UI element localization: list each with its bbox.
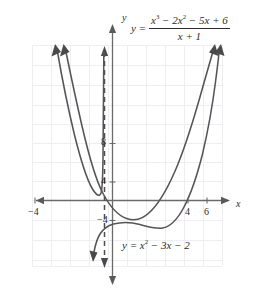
y-axis-label: y	[122, 12, 126, 23]
x-tick-label-4: 4	[185, 206, 190, 217]
equation-label-parabola: y = x2 − 3x − 2	[122, 238, 190, 251]
y-axis	[109, 24, 116, 285]
parabola-lhs: y = x	[122, 239, 145, 251]
graph-canvas	[0, 0, 256, 297]
y-tick-label-8: 8	[101, 136, 106, 147]
rational-numerator: x3 − 2x2 − 5x + 6	[149, 13, 230, 27]
vertical-asymptote-x-eq-neg1	[101, 46, 108, 268]
x-axis	[36, 197, 230, 204]
rational-fraction: x3 − 2x2 − 5x + 6 x + 1	[149, 13, 230, 43]
parabola-rest: − 3x − 2	[148, 239, 190, 251]
grid-lines	[32, 45, 223, 267]
rational-lhs: y =	[131, 22, 146, 34]
fraction-bar	[149, 28, 230, 29]
rational-denominator: x + 1	[149, 30, 230, 43]
num-mid1: − 2x	[159, 14, 182, 26]
curve-rational-left-branch	[58, 52, 104, 195]
y-tick-label-4: 4	[101, 175, 106, 186]
x-tick-label-neg4: −4	[28, 206, 39, 217]
x-axis-label: x	[236, 198, 240, 209]
y-tick-label-neg4: −4	[97, 214, 108, 225]
graph-figure: y = x3 − 2x2 − 5x + 6 x + 1 y = x2 − 3x …	[0, 0, 256, 297]
equation-label-rational: y = x3 − 2x2 − 5x + 6 x + 1	[131, 13, 230, 43]
x-tick-label-6: 6	[204, 206, 209, 217]
num-mid2: − 5x + 6	[186, 14, 228, 26]
